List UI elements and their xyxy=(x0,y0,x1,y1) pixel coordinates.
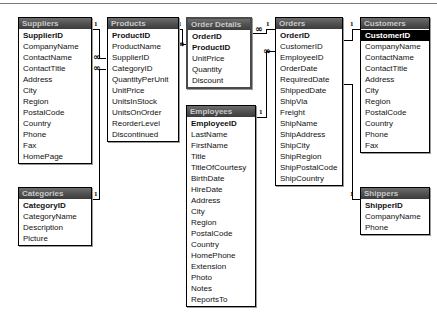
field-row[interactable]: BirthDate xyxy=(187,173,255,184)
field-row[interactable]: UnitsInStock xyxy=(108,96,178,107)
field-row-primary-key[interactable]: OrderID xyxy=(276,30,342,41)
table-categories[interactable]: CategoriesCategoryIDCategoryNameDescript… xyxy=(18,187,92,246)
field-row[interactable]: Phone xyxy=(361,129,429,140)
field-row[interactable]: Discount xyxy=(188,75,250,86)
table-customers[interactable]: CustomersCustomerIDCompanyNameContactNam… xyxy=(360,17,430,153)
table-title[interactable]: Categories xyxy=(19,188,91,199)
field-row[interactable]: Region xyxy=(187,217,255,228)
field-list: OrderIDCustomerIDEmployeeIDOrderDateRequ… xyxy=(276,29,342,185)
field-row[interactable]: HomePhone xyxy=(187,250,255,261)
table-title[interactable]: Order Details xyxy=(188,19,250,30)
field-row[interactable]: CategoryID xyxy=(108,63,178,74)
relationships-canvas[interactable]: 1 ∞ ∞ 1 1 ∞ ∞ 1 1 ∞ 1 ∞ 1 ∞ SuppliersSup… xyxy=(0,5,437,313)
field-row-primary-key[interactable]: EmployeeID xyxy=(187,118,255,129)
field-list: ProductIDProductNameSupplierIDCategoryID… xyxy=(108,29,178,141)
table-title[interactable]: Shippers xyxy=(361,188,429,199)
field-row[interactable]: PostalCode xyxy=(19,107,91,118)
table-title[interactable]: Products xyxy=(108,18,178,29)
field-row[interactable]: UnitPrice xyxy=(188,53,250,64)
field-row[interactable]: UnitsOnOrder xyxy=(108,107,178,118)
field-row[interactable]: UnitPrice xyxy=(108,85,178,96)
cardinality-one-categories-products: 1 xyxy=(94,191,98,198)
field-row[interactable]: ReportsTo xyxy=(187,294,255,305)
field-row[interactable]: Fax xyxy=(19,140,91,151)
field-row[interactable]: ContactTitle xyxy=(361,63,429,74)
field-row[interactable]: ProductName xyxy=(108,41,178,52)
field-row[interactable]: Picture xyxy=(19,233,91,244)
field-row[interactable]: SupplierID xyxy=(108,52,178,63)
field-row[interactable]: City xyxy=(19,85,91,96)
field-row[interactable]: Extension xyxy=(187,261,255,272)
field-row[interactable]: Quantity xyxy=(188,64,250,75)
field-row[interactable]: HomePage xyxy=(19,151,91,162)
table-title[interactable]: Orders xyxy=(276,18,342,29)
field-row[interactable]: Fax xyxy=(361,140,429,151)
table-title[interactable]: Customers xyxy=(361,18,429,29)
field-row[interactable]: PostalCode xyxy=(187,228,255,239)
field-row[interactable]: ShipAddress xyxy=(276,129,342,140)
field-row[interactable]: ContactName xyxy=(19,52,91,63)
table-title[interactable]: Suppliers xyxy=(19,18,91,29)
table-orders[interactable]: OrdersOrderIDCustomerIDEmployeeIDOrderDa… xyxy=(275,17,343,186)
field-row[interactable]: ContactTitle xyxy=(19,63,91,74)
field-row[interactable]: ShipPostalCode xyxy=(276,162,342,173)
field-row[interactable]: Freight xyxy=(276,107,342,118)
cardinality-one-suppliers-products: 1 xyxy=(94,21,98,28)
field-row[interactable]: EmployeeID xyxy=(276,52,342,63)
field-row-primary-key[interactable]: CustomerID xyxy=(361,30,429,41)
table-order-details[interactable]: Order DetailsOrderIDProductIDUnitPriceQu… xyxy=(186,17,252,89)
field-row-primary-key[interactable]: ProductID xyxy=(188,42,250,53)
field-row[interactable]: Country xyxy=(187,239,255,250)
field-row[interactable]: Title xyxy=(187,151,255,162)
field-row-primary-key[interactable]: CategoryID xyxy=(19,200,91,211)
field-row[interactable]: ShipCity xyxy=(276,140,342,151)
field-row[interactable]: Region xyxy=(19,96,91,107)
field-row[interactable]: ShippedDate xyxy=(276,85,342,96)
field-row[interactable]: FirstName xyxy=(187,140,255,151)
field-row[interactable]: Phone xyxy=(361,222,429,233)
field-row[interactable]: HireDate xyxy=(187,184,255,195)
field-row[interactable]: ShipName xyxy=(276,118,342,129)
field-row-primary-key[interactable]: ShipperID xyxy=(361,200,429,211)
field-row[interactable]: QuantityPerUnit xyxy=(108,74,178,85)
field-row[interactable]: ShipVia xyxy=(276,96,342,107)
table-shippers[interactable]: ShippersShipperIDCompanyNamePhone xyxy=(360,187,430,235)
table-suppliers[interactable]: SuppliersSupplierIDCompanyNameContactNam… xyxy=(18,17,92,164)
field-row[interactable]: ShipRegion xyxy=(276,151,342,162)
field-row[interactable]: Photo xyxy=(187,272,255,283)
field-row[interactable]: Region xyxy=(361,96,429,107)
field-row[interactable]: Phone xyxy=(19,129,91,140)
field-row-primary-key[interactable]: SupplierID xyxy=(19,30,91,41)
field-row[interactable]: Country xyxy=(19,118,91,129)
field-row[interactable]: CustomerID xyxy=(276,41,342,52)
field-row[interactable]: Country xyxy=(361,118,429,129)
field-row[interactable]: ReorderLevel xyxy=(108,118,178,129)
field-row[interactable]: RequiredDate xyxy=(276,74,342,85)
field-row[interactable]: ShipCountry xyxy=(276,173,342,184)
field-row-primary-key[interactable]: OrderID xyxy=(188,31,250,42)
field-row[interactable]: OrderDate xyxy=(276,63,342,74)
field-row[interactable]: Address xyxy=(19,74,91,85)
table-products[interactable]: ProductsProductIDProductNameSupplierIDCa… xyxy=(107,17,179,142)
table-employees[interactable]: EmployeesEmployeeIDLastNameFirstNameTitl… xyxy=(186,105,256,307)
field-list: CategoryIDCategoryNameDescriptionPicture xyxy=(19,199,91,245)
field-row[interactable]: City xyxy=(361,85,429,96)
field-row[interactable]: CategoryName xyxy=(19,211,91,222)
field-row[interactable]: Notes xyxy=(187,283,255,294)
field-list: EmployeeIDLastNameFirstNameTitleTitleOfC… xyxy=(187,117,255,306)
field-row[interactable]: CompanyName xyxy=(361,41,429,52)
field-row[interactable]: TitleOfCourtesy xyxy=(187,162,255,173)
field-row[interactable]: CompanyName xyxy=(19,41,91,52)
field-row[interactable]: City xyxy=(187,206,255,217)
field-row[interactable]: Address xyxy=(361,74,429,85)
table-title[interactable]: Employees xyxy=(187,106,255,117)
field-row[interactable]: ContactName xyxy=(361,52,429,63)
field-row[interactable]: CompanyName xyxy=(361,211,429,222)
field-list: OrderIDProductIDUnitPriceQuantityDiscoun… xyxy=(188,30,250,87)
field-row-primary-key[interactable]: ProductID xyxy=(108,30,178,41)
field-row[interactable]: Description xyxy=(19,222,91,233)
field-row[interactable]: Address xyxy=(187,195,255,206)
field-row[interactable]: LastName xyxy=(187,129,255,140)
field-row[interactable]: PostalCode xyxy=(361,107,429,118)
field-row[interactable]: Discontinued xyxy=(108,129,178,140)
